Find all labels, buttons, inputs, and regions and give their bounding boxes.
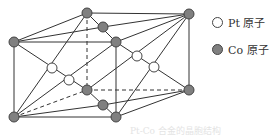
co-atom xyxy=(98,100,108,110)
pt-atom xyxy=(64,75,74,85)
figure-caption: Pt-Co 合金的晶胞结构 xyxy=(130,124,221,135)
pt-atom xyxy=(149,62,159,72)
co-atom xyxy=(82,85,92,95)
co-atom-icon xyxy=(212,44,223,55)
pt-atom-icon xyxy=(212,17,223,28)
co-atom xyxy=(184,85,194,95)
co-atom xyxy=(9,112,19,122)
co-atom xyxy=(98,22,108,32)
co-atom xyxy=(82,8,92,18)
crystal-structure-diagram xyxy=(0,0,200,135)
co-atom xyxy=(184,9,194,19)
pt-atom xyxy=(132,51,142,61)
pt-atom xyxy=(47,63,57,73)
co-atom xyxy=(9,37,19,47)
co-atom xyxy=(111,37,121,47)
legend-label-pt: Pt 原子 xyxy=(228,14,265,30)
legend-item-co: Co 原子 xyxy=(212,41,269,57)
legend-item-pt: Pt 原子 xyxy=(212,14,265,30)
legend-label-co: Co 原子 xyxy=(228,41,269,57)
co-atom xyxy=(111,112,121,122)
